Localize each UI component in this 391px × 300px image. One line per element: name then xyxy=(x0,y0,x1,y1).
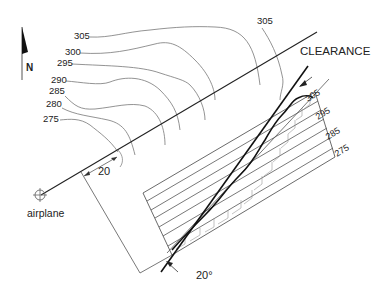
contour-label-300: 300 xyxy=(65,46,81,57)
airplane-icon xyxy=(33,188,47,202)
contour-label-275: 275 xyxy=(43,113,59,124)
projection-line xyxy=(81,172,140,273)
contour-label-295: 295 xyxy=(57,57,73,68)
contour-label-305: 305 xyxy=(74,30,90,41)
clearance-diagram: N 305 300 295 290 285 280 275 305 airpla… xyxy=(0,0,391,300)
profile-label-285: 285 xyxy=(324,125,342,141)
angle-label: 20° xyxy=(196,269,213,281)
clearance-label: CLEARANCE xyxy=(300,45,371,57)
terrain-hatch xyxy=(176,100,310,249)
profile-label-295: 295 xyxy=(314,105,332,121)
contour-label-285: 285 xyxy=(49,85,65,96)
clearance-line xyxy=(161,66,308,272)
profile-box xyxy=(143,92,335,255)
profile-label-275: 275 xyxy=(333,142,351,158)
distance-label: 20 xyxy=(98,165,110,177)
north-label: N xyxy=(26,62,33,73)
angle-arrow-icon xyxy=(166,261,178,272)
airplane-label: airplane xyxy=(27,207,65,219)
map-contours xyxy=(60,27,283,155)
flight-line xyxy=(41,32,317,195)
clearance-arrow-icon xyxy=(299,77,312,87)
contour-label-280: 280 xyxy=(46,98,62,109)
contour-label-305-top: 305 xyxy=(257,15,273,26)
contour-label-290: 290 xyxy=(51,74,67,85)
